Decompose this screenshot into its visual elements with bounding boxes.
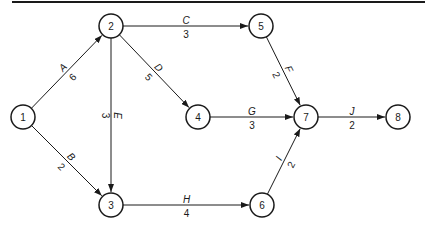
edge-label-E: E <box>112 112 123 119</box>
edge-F <box>266 37 300 106</box>
edge-duration-D: 5 <box>143 71 155 83</box>
edge-label-J: J <box>349 106 356 117</box>
edge-label-C: C <box>182 15 190 26</box>
node-label-4: 4 <box>195 112 201 123</box>
edge-A <box>31 35 102 108</box>
edge-duration-A: 6 <box>67 71 79 83</box>
edge-duration-J: 2 <box>349 120 355 131</box>
node-label-2: 2 <box>108 21 114 32</box>
edge-duration-F: 2 <box>270 70 283 80</box>
edge-duration-I: 2 <box>285 159 298 169</box>
edge-label-G: G <box>248 106 256 117</box>
edge-I <box>267 129 300 195</box>
edge-duration-E: 3 <box>100 113 111 119</box>
node-label-8: 8 <box>395 112 401 123</box>
edge-label-I: I <box>273 154 284 162</box>
edge-duration-B: 2 <box>55 161 67 173</box>
edge-label-A: A <box>56 61 69 74</box>
node-label-1: 1 <box>20 112 26 123</box>
node-label-6: 6 <box>259 200 265 211</box>
edge-B <box>31 125 101 195</box>
edge-D <box>119 35 189 108</box>
node-label-3: 3 <box>108 200 114 211</box>
edge-duration-C: 3 <box>183 29 189 40</box>
edge-label-H: H <box>183 194 191 205</box>
node-label-7: 7 <box>303 112 309 123</box>
edge-duration-H: 4 <box>184 208 190 219</box>
network-diagram: 12345678 A6B2C3D5E3F2G3H4I2J2 <box>0 0 425 229</box>
edge-duration-G: 3 <box>249 120 255 131</box>
node-label-5: 5 <box>258 21 264 32</box>
